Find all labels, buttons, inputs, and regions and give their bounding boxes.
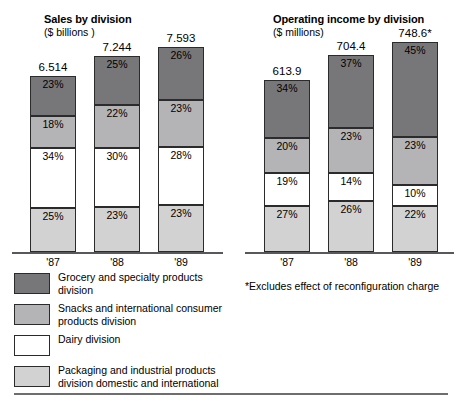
bar-total-label: 7.593 bbox=[146, 32, 216, 44]
bar-segment: 27% bbox=[264, 206, 310, 252]
bar-segment: 45% bbox=[392, 42, 438, 137]
bar-segment: 23% bbox=[94, 207, 140, 252]
bar-segment: 19% bbox=[264, 173, 310, 206]
bar-segment-label: 37% bbox=[340, 56, 361, 69]
stacked-bar: 34%20%19%27% bbox=[264, 80, 310, 252]
bar-segment-label: 22% bbox=[106, 106, 127, 119]
bar-segment-label: 23% bbox=[404, 138, 425, 151]
x-axis-tick-label: '89 bbox=[392, 256, 438, 268]
bar-segment-label: 30% bbox=[106, 149, 127, 162]
bar-segment: 23% bbox=[158, 100, 204, 147]
bar-segment-label: 20% bbox=[276, 139, 297, 152]
stacked-bar: 25%22%30%23% bbox=[94, 56, 140, 252]
bar-segment: 10% bbox=[392, 185, 438, 206]
bar-segment-label: 28% bbox=[170, 148, 191, 161]
bar-segment: 22% bbox=[94, 105, 140, 148]
bar-segment: 20% bbox=[264, 138, 310, 172]
legend-item: Dairy division bbox=[14, 333, 240, 364]
stacked-bar: 26%23%28%23% bbox=[158, 47, 204, 252]
x-axis-tick-label: '87 bbox=[30, 256, 76, 268]
bar-segment: 34% bbox=[30, 148, 76, 208]
legend-swatch-light-grey bbox=[14, 366, 50, 387]
bar-segment: 22% bbox=[392, 206, 438, 252]
bar-segment-label: 23% bbox=[340, 129, 361, 142]
bar-segment: 34% bbox=[264, 80, 310, 138]
bar-segment-label: 19% bbox=[276, 174, 297, 187]
bar-segment-label: 23% bbox=[42, 77, 63, 90]
bar-segment: 23% bbox=[328, 128, 374, 173]
bar-segment: 14% bbox=[328, 173, 374, 201]
stacked-bar: 23%18%34%25% bbox=[30, 76, 76, 252]
bar-segment: 28% bbox=[158, 147, 204, 204]
x-axis-tick-label: '89 bbox=[158, 256, 204, 268]
chart-panel-operating-income: Operating income by division ($ millions… bbox=[231, 0, 462, 270]
legend-item: Snacks and international consumer produc… bbox=[14, 302, 240, 333]
bar-segment-label: 23% bbox=[106, 208, 127, 221]
bar-segment: 37% bbox=[328, 55, 374, 128]
bar-segment-label: 25% bbox=[42, 209, 63, 222]
bar-segment-label: 10% bbox=[404, 186, 425, 199]
bar-segment-label: 26% bbox=[170, 48, 191, 61]
bar-segment-label: 34% bbox=[42, 149, 63, 162]
legend-label: Grocery and specialty products division bbox=[58, 271, 203, 296]
plot-area-sales: 6.51423%18%34%25%'877.24425%22%30%23%'88… bbox=[0, 0, 231, 270]
chart-panel-sales: Sales by division ($ billions ) 6.51423%… bbox=[0, 0, 231, 270]
bottom-divider bbox=[14, 393, 448, 395]
x-axis-line bbox=[12, 252, 223, 254]
bar-total-label: 7.244 bbox=[82, 41, 152, 53]
bar-segment-label: 23% bbox=[170, 206, 191, 219]
bar-segment: 23% bbox=[30, 76, 76, 116]
legend-item: Grocery and specialty products division bbox=[14, 271, 240, 302]
bar-segment: 25% bbox=[94, 56, 140, 105]
bar-segment-label: 45% bbox=[404, 43, 425, 56]
chart-legend: Grocery and specialty products divisionS… bbox=[14, 271, 240, 395]
legend-label: Snacks and international consumer produc… bbox=[58, 302, 222, 327]
legend-item: Packaging and industrial products divisi… bbox=[14, 364, 240, 395]
x-axis-line bbox=[245, 252, 454, 254]
bar-segment: 23% bbox=[158, 205, 204, 252]
bar-segment: 26% bbox=[158, 47, 204, 100]
bar-segment: 18% bbox=[30, 116, 76, 148]
bar-total-label: 704.4 bbox=[316, 40, 386, 52]
bar-segment: 30% bbox=[94, 148, 140, 207]
legend-label: Packaging and industrial products divisi… bbox=[58, 364, 219, 389]
bar-segment-label: 23% bbox=[170, 101, 191, 114]
legend-label: Dairy division bbox=[58, 333, 120, 346]
bar-segment-label: 25% bbox=[106, 57, 127, 70]
legend-swatch-medium-grey bbox=[14, 304, 50, 325]
bar-segment-label: 34% bbox=[276, 81, 297, 94]
x-axis-tick-label: '88 bbox=[328, 256, 374, 268]
bar-segment-label: 14% bbox=[340, 174, 361, 187]
bar-total-label: 748.6* bbox=[380, 27, 450, 39]
bar-total-label: 613.9 bbox=[252, 65, 322, 77]
x-axis-tick-label: '87 bbox=[264, 256, 310, 268]
legend-swatch-dark-grey bbox=[14, 273, 50, 294]
bar-total-label: 6.514 bbox=[18, 61, 88, 73]
bar-segment: 26% bbox=[328, 201, 374, 252]
bar-segment-label: 26% bbox=[340, 202, 361, 215]
stacked-bar: 45%23%10%22% bbox=[392, 42, 438, 252]
legend-swatch-white bbox=[14, 335, 50, 356]
bar-segment: 23% bbox=[392, 137, 438, 185]
plot-area-operating-income: 613.934%20%19%27%'87704.437%23%14%26%'88… bbox=[231, 0, 462, 270]
footnote-text: *Excludes effect of reconfiguration char… bbox=[245, 280, 439, 292]
x-axis-tick-label: '88 bbox=[94, 256, 140, 268]
bar-segment-label: 22% bbox=[404, 207, 425, 220]
bar-segment-label: 18% bbox=[42, 117, 63, 130]
stacked-bar: 37%23%14%26% bbox=[328, 55, 374, 252]
bar-segment: 25% bbox=[30, 208, 76, 252]
bar-segment-label: 27% bbox=[276, 207, 297, 220]
